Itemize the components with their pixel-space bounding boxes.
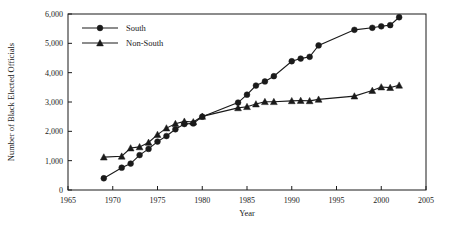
x-tick-label: 1970 — [105, 196, 121, 205]
data-point — [155, 139, 161, 145]
y-axis-title: Number of Black Elected Officials — [6, 43, 16, 161]
plot-frame — [68, 14, 426, 190]
data-point — [137, 152, 143, 158]
x-tick-label: 1985 — [239, 196, 255, 205]
data-point — [253, 83, 259, 89]
x-tick-label: 1965 — [60, 196, 76, 205]
y-tick-label: 0 — [59, 186, 63, 195]
data-point — [128, 161, 134, 167]
legend-item-non-south: Non-South — [82, 38, 164, 48]
chart-figure: 01,0002,0003,0004,0005,0006,000196519701… — [0, 0, 455, 230]
data-point — [136, 143, 143, 149]
data-point — [146, 146, 152, 152]
x-axis-title: Year — [239, 208, 255, 218]
legend-label: Non-South — [126, 38, 164, 48]
x-tick-label: 1980 — [194, 196, 210, 205]
y-tick-label: 1,000 — [45, 157, 63, 166]
y-tick-label: 6,000 — [45, 10, 63, 19]
legend-marker — [97, 25, 103, 31]
data-point — [396, 14, 402, 20]
y-tick-label: 3,000 — [45, 98, 63, 107]
y-tick-label: 4,000 — [45, 69, 63, 78]
data-point — [101, 175, 107, 181]
x-tick-label: 1990 — [284, 196, 300, 205]
data-point — [378, 23, 384, 29]
data-point — [369, 25, 375, 31]
data-point — [119, 165, 125, 171]
data-point — [396, 82, 403, 88]
data-point — [164, 133, 170, 139]
y-tick-label: 2,000 — [45, 127, 63, 136]
data-point — [244, 92, 250, 98]
data-point — [352, 27, 358, 33]
data-point — [271, 73, 277, 79]
data-point — [307, 54, 313, 60]
data-point — [289, 58, 295, 64]
x-tick-label: 1995 — [329, 196, 345, 205]
data-point — [369, 87, 376, 93]
data-point — [154, 131, 161, 137]
data-point — [298, 56, 304, 62]
line-chart: 01,0002,0003,0004,0005,0006,000196519701… — [0, 0, 455, 230]
data-point — [387, 22, 393, 28]
x-tick-label: 1975 — [150, 196, 166, 205]
data-point — [173, 126, 179, 132]
data-point — [262, 79, 268, 85]
x-tick-label: 2000 — [373, 196, 389, 205]
y-tick-label: 5,000 — [45, 39, 63, 48]
legend-item-south: South — [82, 23, 147, 33]
x-tick-label: 2005 — [418, 196, 434, 205]
legend-label: South — [126, 23, 147, 33]
data-point — [316, 42, 322, 48]
data-point — [163, 125, 170, 131]
